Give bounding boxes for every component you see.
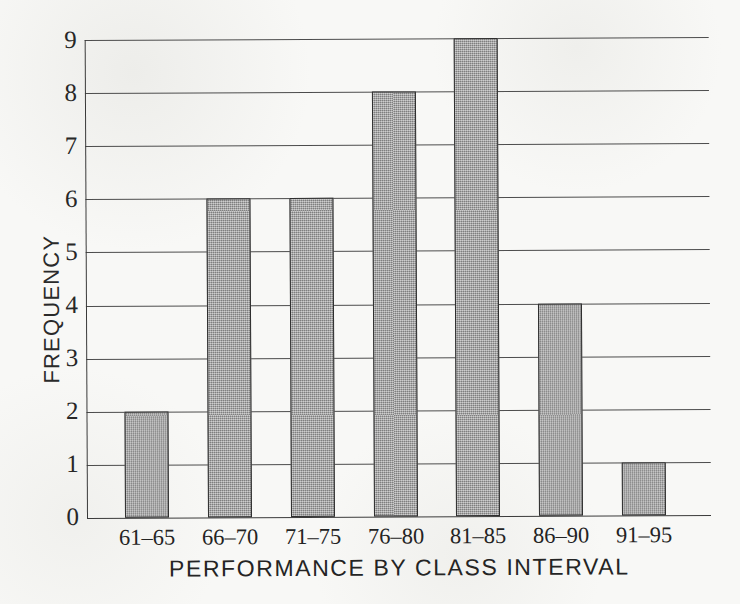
bar-76-80 <box>372 91 418 516</box>
ytick-label-8: 8 <box>49 80 77 105</box>
x-axis-line <box>87 515 711 519</box>
y-axis-line <box>85 40 88 519</box>
ytick-label-9: 9 <box>49 27 77 52</box>
ytick-label-7: 7 <box>49 133 77 158</box>
bar-61-65 <box>124 411 169 517</box>
bar-66-70 <box>206 198 252 517</box>
plot-area: 9 8 7 6 5 4 3 2 1 0 61–65 66–70 71–75 76… <box>0 0 740 604</box>
bar-81-85 <box>454 38 500 516</box>
bar-71-75 <box>289 198 335 517</box>
bar-91-95 <box>622 462 666 515</box>
y-axis-title: FREQUENCY <box>38 209 65 409</box>
bar-86-90 <box>538 303 583 516</box>
x-axis-title: PERFORMANCE BY CLASS INTERVAL <box>87 553 711 583</box>
gridline-9 <box>85 37 709 41</box>
ytick-label-0: 0 <box>51 504 79 529</box>
ytick-label-6: 6 <box>49 186 77 211</box>
xtick-label-91-95: 91–95 <box>589 522 699 549</box>
ytick-label-1: 1 <box>51 451 79 476</box>
histogram-figure: 9 8 7 6 5 4 3 2 1 0 61–65 66–70 71–75 76… <box>0 0 740 604</box>
